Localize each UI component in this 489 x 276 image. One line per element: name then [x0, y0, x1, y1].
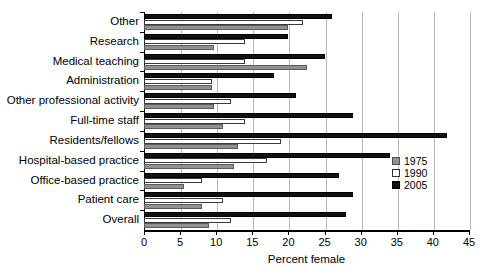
x-tick: [397, 230, 398, 235]
x-axis-title: Percent female: [144, 253, 469, 265]
bar-1975: [144, 85, 212, 90]
bar-2005: [144, 113, 353, 118]
bar-group: Full-time staff: [0, 111, 489, 131]
bar-1990: [144, 178, 202, 183]
y-tick: [140, 52, 144, 53]
y-tick: [140, 32, 144, 33]
legend-label-1975: 1975: [404, 155, 427, 167]
category-label: Residents/fellows: [50, 134, 139, 146]
bar-1990: [144, 99, 231, 104]
bar-1990: [144, 158, 267, 163]
x-tick-label: 30: [346, 236, 376, 249]
bar-1990: [144, 139, 281, 144]
bar-group: Residents/fellows: [0, 131, 489, 151]
category-label: Research: [90, 35, 139, 47]
bar-2005: [144, 73, 274, 78]
legend-label-2005: 2005: [404, 179, 427, 191]
x-tick-label: 25: [310, 236, 340, 249]
bar-1975: [144, 144, 238, 149]
category-label: Other: [110, 15, 139, 27]
bar-2005: [144, 153, 390, 158]
bar-1975: [144, 223, 209, 228]
category-label: Overall: [103, 213, 139, 225]
legend: 1975 1990 2005: [392, 155, 427, 191]
bar-1990: [144, 198, 223, 203]
y-tick: [140, 131, 144, 132]
bar-1975: [144, 45, 214, 50]
bar-1990: [144, 59, 245, 64]
y-tick: [140, 151, 144, 152]
y-tick: [140, 190, 144, 191]
legend-label-1990: 1990: [404, 167, 427, 179]
bar-group: Overall: [0, 210, 489, 230]
bar-2005: [144, 34, 288, 39]
bar-2005: [144, 93, 296, 98]
bar-1975: [144, 184, 184, 189]
y-tick: [140, 171, 144, 172]
bar-1990: [144, 20, 303, 25]
bar-group: Patient care: [0, 190, 489, 210]
legend-item-1975: 1975: [392, 155, 427, 167]
x-tick-label: 45: [454, 236, 484, 249]
x-tick-label: 35: [382, 236, 412, 249]
x-tick: [288, 230, 289, 235]
bar-2005: [144, 133, 447, 138]
category-label: Patient care: [78, 193, 139, 205]
bar-1975: [144, 104, 214, 109]
y-tick: [140, 91, 144, 92]
bar-1975: [144, 65, 307, 70]
x-tick: [216, 230, 217, 235]
bar-1975: [144, 124, 223, 129]
y-tick: [140, 71, 144, 72]
legend-item-1990: 1990: [392, 167, 427, 179]
x-tick-label: 10: [201, 236, 231, 249]
bar-1990: [144, 218, 231, 223]
category-label: Medical teaching: [53, 55, 139, 67]
bar-chart: 051015202530354045 OtherResearchMedical …: [0, 0, 489, 276]
x-tick: [325, 230, 326, 235]
x-tick: [144, 230, 145, 235]
category-label: Office-based practice: [31, 174, 139, 186]
category-label: Other professional activity: [7, 94, 139, 106]
legend-swatch-1990: [392, 169, 400, 177]
bar-group: Research: [0, 32, 489, 52]
category-label: Hospital-based practice: [19, 154, 139, 166]
bar-2005: [144, 192, 353, 197]
bar-1990: [144, 39, 245, 44]
x-tick-label: 0: [129, 236, 159, 249]
bar-1990: [144, 79, 212, 84]
bar-1975: [144, 204, 202, 209]
bar-2005: [144, 212, 346, 217]
x-tick-label: 20: [273, 236, 303, 249]
category-label: Administration: [66, 74, 139, 86]
bar-group: Administration: [0, 71, 489, 91]
bar-2005: [144, 173, 339, 178]
bar-group: Other professional activity: [0, 91, 489, 111]
legend-swatch-2005: [392, 181, 400, 189]
bar-2005: [144, 14, 332, 19]
bar-2005: [144, 54, 325, 59]
x-tick: [252, 230, 253, 235]
x-tick-label: 15: [237, 236, 267, 249]
y-tick: [140, 210, 144, 211]
x-tick-label: 40: [418, 236, 448, 249]
x-tick: [180, 230, 181, 235]
x-tick: [469, 230, 470, 235]
y-tick: [140, 12, 144, 13]
bar-group: Medical teaching: [0, 52, 489, 72]
legend-item-2005: 2005: [392, 179, 427, 191]
x-tick: [433, 230, 434, 235]
y-tick: [140, 111, 144, 112]
bar-group: Other: [0, 12, 489, 32]
category-label: Full-time staff: [70, 114, 139, 126]
x-tick: [361, 230, 362, 235]
bar-1975: [144, 25, 288, 30]
legend-swatch-1975: [392, 157, 400, 165]
x-tick-label: 5: [165, 236, 195, 249]
bar-1990: [144, 119, 245, 124]
bar-1975: [144, 164, 234, 169]
x-axis-line: [144, 230, 469, 232]
